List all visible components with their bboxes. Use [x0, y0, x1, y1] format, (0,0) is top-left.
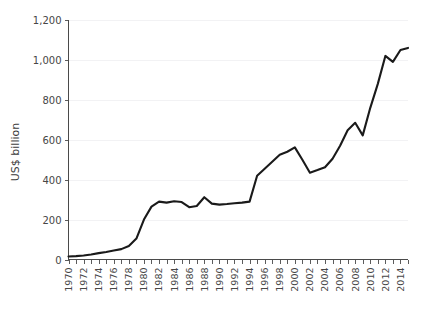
y-tick-label: 600 — [42, 135, 61, 146]
x-tick-label: 2012 — [380, 268, 391, 292]
y-tick-label: 400 — [42, 175, 61, 186]
chart-container: 02004006008001,0001,200 1970197219741976… — [0, 0, 423, 309]
x-tick-label: 1994 — [244, 268, 255, 292]
x-tick-label: 1990 — [214, 268, 225, 292]
x-tick-label: 2010 — [365, 268, 376, 292]
x-tick-label: 1980 — [138, 268, 149, 292]
x-tick-label: 2002 — [304, 268, 315, 292]
x-tick-label: 1978 — [123, 268, 134, 292]
x-tick-label: 1982 — [153, 268, 164, 292]
x-tick-label: 1996 — [259, 268, 270, 292]
x-axis-tick-labels: 1970197219741976197819801982198419861988… — [63, 268, 406, 292]
y-tick-label: 200 — [42, 215, 61, 226]
x-tick-label: 1986 — [184, 268, 195, 292]
y-tick-label: 0 — [55, 255, 61, 266]
x-tick-label: 2014 — [395, 268, 406, 292]
x-tick-label: 1972 — [78, 268, 89, 292]
x-tick-label: 1976 — [108, 268, 119, 292]
y-tick-label: 1,200 — [33, 15, 62, 26]
x-tick-label: 2006 — [335, 268, 346, 292]
x-tick-label: 1998 — [274, 268, 285, 292]
x-tick-label: 1974 — [93, 268, 104, 292]
line-chart: 02004006008001,0001,200 1970197219741976… — [0, 0, 423, 309]
y-tick-label: 800 — [42, 95, 61, 106]
x-tick-label: 1988 — [199, 268, 210, 292]
x-tick-label: 1992 — [229, 268, 240, 292]
x-tick-label: 1970 — [63, 268, 74, 292]
x-tick-label: 2008 — [350, 268, 361, 292]
x-tick-label: 2000 — [289, 268, 300, 292]
x-tick-label: 2004 — [319, 268, 330, 292]
x-tick-label: 1984 — [169, 268, 180, 292]
y-axis-title: US$ billion — [9, 123, 22, 181]
y-tick-label: 1,000 — [33, 55, 62, 66]
chart-background — [0, 0, 423, 309]
